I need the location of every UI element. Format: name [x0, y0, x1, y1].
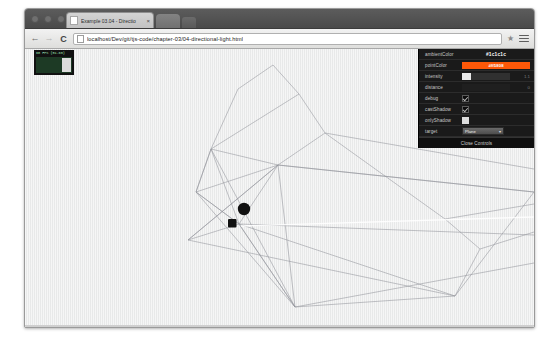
gui-checkbox-debug[interactable]	[462, 95, 469, 102]
chevron-down-icon: ▾	[499, 129, 501, 134]
address-bar[interactable]: localhost/Dev/git/tjs-code/chapter-03/04…	[73, 33, 502, 45]
gui-checkbox-onlyShadow[interactable]	[462, 117, 469, 124]
gui-label-castShadow: castShadow	[425, 107, 462, 112]
gui-row-distance[interactable]: distance 0	[419, 82, 534, 93]
page-viewport: 60 FPS (51-60)	[25, 49, 534, 327]
tab-strip: Example 03.04 - Directio ×	[25, 9, 534, 29]
gui-row-intensity[interactable]: intensity 1.1	[419, 71, 534, 82]
gui-value-distance[interactable]: 0	[514, 85, 530, 90]
inactive-tab[interactable]	[156, 14, 180, 28]
bookmark-star-icon[interactable]: ★	[506, 35, 515, 43]
gui-label-target: target	[425, 129, 462, 134]
gui-value-ambientColor[interactable]: #1c1c1c	[462, 52, 530, 57]
tab-favicon-icon	[70, 16, 78, 25]
new-tab-button[interactable]	[182, 17, 196, 28]
gui-row-pointColor[interactable]: pointColor #ff5808	[419, 60, 534, 71]
window-minimize-button[interactable]	[44, 15, 52, 23]
fps-stats-panel[interactable]: 60 FPS (51-60)	[34, 50, 74, 75]
window-maximize-button[interactable]	[57, 15, 65, 23]
gui-label-onlyShadow: onlyShadow	[425, 118, 462, 123]
gui-label-ambientColor: ambientColor	[425, 52, 462, 57]
window-close-button[interactable]	[31, 15, 39, 23]
browser-menu-icon[interactable]	[519, 34, 529, 43]
gui-close-controls-label: Close Controls	[461, 141, 493, 146]
gui-close-controls-button[interactable]: Close Controls	[419, 137, 534, 148]
gui-row-target[interactable]: target Plane ▾	[419, 126, 534, 137]
browser-toolbar: ← → C localhost/Dev/git/tjs-code/chapter…	[25, 29, 534, 49]
reload-button[interactable]: C	[58, 34, 69, 44]
tab-close-icon[interactable]: ×	[146, 18, 150, 24]
browser-tab[interactable]: Example 03.04 - Directio ×	[66, 12, 154, 28]
fps-graph	[36, 57, 72, 73]
browser-window: Example 03.04 - Directio × ← → C localho…	[24, 8, 535, 328]
gui-select-value: Plane	[465, 129, 476, 134]
forward-button[interactable]: →	[44, 33, 54, 45]
gui-value-pointColor: #ff5808	[488, 63, 503, 68]
gui-label-distance: distance	[425, 85, 462, 90]
gui-row-debug[interactable]: debug	[419, 93, 534, 104]
gui-slider-distance[interactable]	[462, 84, 510, 91]
fps-label: 60 FPS (51-60)	[34, 50, 74, 55]
gui-select-target[interactable]: Plane ▾	[462, 127, 504, 135]
address-bar-url: localhost/Dev/git/tjs-code/chapter-03/04…	[87, 36, 243, 42]
page-info-icon[interactable]	[77, 35, 84, 43]
window-controls[interactable]	[31, 15, 65, 23]
gui-row-onlyShadow[interactable]: onlyShadow	[419, 115, 534, 126]
gui-slider-intensity[interactable]	[462, 73, 510, 80]
gui-checkbox-castShadow[interactable]	[462, 106, 469, 113]
tab-title: Example 03.04 - Directio	[81, 18, 143, 24]
gui-label-intensity: intensity	[425, 74, 462, 79]
gui-row-castShadow[interactable]: castShadow	[419, 104, 534, 115]
gui-swatch-pointColor[interactable]: #ff5808	[462, 62, 530, 69]
gui-label-debug: debug	[425, 96, 462, 101]
gui-row-ambientColor[interactable]: ambientColor #1c1c1c	[419, 49, 534, 60]
sphere-object	[238, 203, 250, 215]
cube-object	[228, 219, 237, 228]
screenshot-root: Example 03.04 - Directio × ← → C localho…	[0, 0, 551, 347]
dat-gui-panel[interactable]: ambientColor #1c1c1c pointColor #ff5808 …	[418, 49, 534, 148]
gui-value-intensity[interactable]: 1.1	[514, 74, 530, 79]
gui-label-pointColor: pointColor	[425, 63, 462, 68]
back-button[interactable]: ←	[30, 33, 40, 45]
